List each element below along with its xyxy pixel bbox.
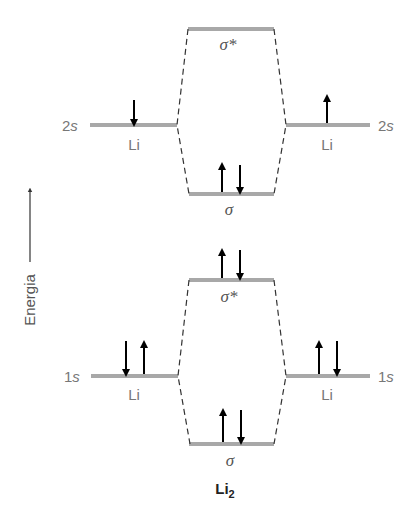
energy-axis-label: Energia xyxy=(21,273,38,325)
sigma-1s-label: σ xyxy=(226,451,235,470)
correlation-line-left-2s xyxy=(177,29,189,194)
right-2s-label: 2s xyxy=(378,117,394,134)
left-2s-label: 2s xyxy=(62,117,78,134)
right-atom-label: Li xyxy=(321,136,333,153)
molecule-label: Li2 xyxy=(215,480,234,500)
energy-axis: Energia xyxy=(21,190,38,326)
level-group-2s: σ* 2s Li 2s Li σ xyxy=(62,29,394,219)
sigma-star-2s-label: σ* xyxy=(220,35,237,54)
correlation-line-right-2s xyxy=(274,29,286,194)
level-group-1s: σ* 1s Li 1s Li σ xyxy=(64,250,394,470)
right-atom-label: Li xyxy=(321,386,333,403)
right-1s-label: 1s xyxy=(378,368,394,385)
sigma-2s-label: σ xyxy=(225,200,234,219)
left-1s-label: 1s xyxy=(64,368,80,385)
mo-diagram: Energia σ* 2s Li 2s Li σ σ* 1s xyxy=(0,0,415,515)
left-atom-label: Li xyxy=(128,386,140,403)
left-atom-label: Li xyxy=(128,136,140,153)
correlation-line-right-1s xyxy=(274,280,286,444)
sigma-star-1s-label: σ* xyxy=(221,287,238,306)
correlation-line-left-1s xyxy=(178,280,190,444)
